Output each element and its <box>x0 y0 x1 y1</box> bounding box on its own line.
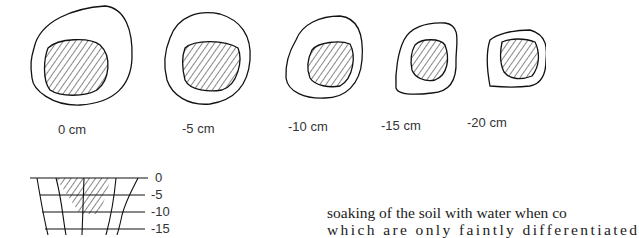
section-15cm <box>396 23 457 94</box>
section-label: -15 cm <box>381 118 421 133</box>
section-0cm <box>31 6 132 105</box>
section-label: 0 cm <box>58 122 86 137</box>
depth-label: -5 <box>151 187 163 202</box>
section-label: -5 cm <box>182 121 215 136</box>
section-label: -10 cm <box>288 119 328 134</box>
text-line: which are only faintly differentiated <box>327 221 639 238</box>
depth-label: 0 <box>155 170 162 185</box>
section-label: -20 cm <box>467 115 507 130</box>
section-20cm <box>232 0 546 87</box>
section-10cm <box>286 16 362 98</box>
body-paragraph: soaking of the soil with water when co w… <box>327 204 639 238</box>
section-5cm <box>165 13 250 104</box>
depth-label: -15 <box>151 221 170 236</box>
text-line: soaking of the soil with water when co <box>327 204 639 221</box>
depth-label: -10 <box>151 204 170 219</box>
depth-profile-diagram <box>30 178 148 235</box>
